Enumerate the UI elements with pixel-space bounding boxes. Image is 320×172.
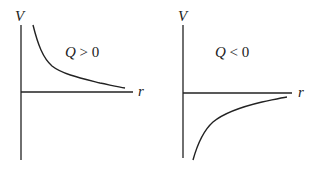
right-x-axis-label: r <box>298 84 304 100</box>
right-condition-label: Q < 0 <box>215 44 249 60</box>
right-curve-negative <box>193 97 287 160</box>
potential-vs-distance-diagram: V r Q > 0 V r Q < 0 <box>0 0 320 172</box>
left-y-axis-label: V <box>15 8 26 24</box>
left-x-axis-label: r <box>138 83 144 99</box>
left-condition-label: Q > 0 <box>65 44 99 60</box>
right-y-axis-label: V <box>178 8 189 24</box>
right-plot: V r Q < 0 <box>178 8 304 160</box>
left-plot: V r Q > 0 <box>15 8 144 160</box>
